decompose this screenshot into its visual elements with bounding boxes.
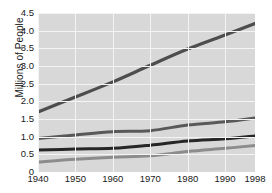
- series-lines: [38, 13, 255, 172]
- x-gridline: [225, 13, 226, 172]
- x-tick-label: 1940: [27, 174, 48, 184]
- x-gridline: [75, 13, 76, 172]
- x-axis-tick-labels: 1940195019601970198019901998: [38, 174, 255, 190]
- y-tick-label: 2.5: [0, 79, 34, 89]
- y-gridline: [38, 13, 255, 14]
- y-tick-label: 3.0: [0, 61, 34, 71]
- plot-area: [38, 13, 255, 172]
- y-tick-label: 2.0: [0, 96, 34, 106]
- x-tick-label: 1998: [244, 174, 265, 184]
- y-gridline: [38, 31, 255, 32]
- y-axis-tick-labels: 4.54.03.53.02.52.01.51.00.50: [0, 0, 34, 193]
- y-gridline: [38, 84, 255, 85]
- x-tick-label: 1960: [102, 174, 123, 184]
- y-gridline: [38, 119, 255, 120]
- y-tick-label: 0.5: [0, 149, 34, 159]
- x-tick-label: 1990: [214, 174, 235, 184]
- y-gridline: [38, 154, 255, 155]
- y-tick-label: 1.0: [0, 132, 34, 142]
- x-gridline: [150, 13, 151, 172]
- line-chart: Millions of People 4.54.03.53.02.52.01.5…: [0, 0, 272, 193]
- x-gridline: [38, 13, 39, 172]
- line-series-1: [38, 24, 255, 112]
- y-tick-label: 3.5: [0, 43, 34, 53]
- y-gridline: [38, 66, 255, 67]
- y-gridline: [38, 48, 255, 49]
- x-tick-label: 1950: [65, 174, 86, 184]
- x-tick-label: 1970: [140, 174, 161, 184]
- y-tick-label: 1.5: [0, 114, 34, 124]
- y-gridline: [38, 137, 255, 138]
- y-gridline: [38, 101, 255, 102]
- y-tick-label: 4.0: [0, 26, 34, 36]
- line-series-2: [38, 118, 255, 138]
- x-tick-label: 1980: [177, 174, 198, 184]
- x-gridline: [113, 13, 114, 172]
- x-gridline: [188, 13, 189, 172]
- y-tick-label: 4.5: [0, 8, 34, 18]
